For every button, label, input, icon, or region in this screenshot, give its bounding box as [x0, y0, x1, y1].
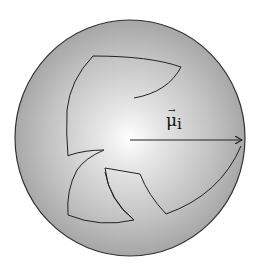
- vector-label-subscript: i: [177, 115, 182, 133]
- sphere-diagram: [0, 0, 257, 269]
- vector-label: →μi: [166, 112, 182, 129]
- vector-arrow-accent: →: [168, 106, 176, 115]
